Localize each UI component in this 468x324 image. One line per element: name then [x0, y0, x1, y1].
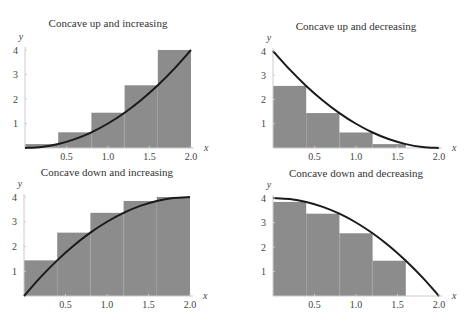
y-tick-label: 3 [261, 70, 266, 81]
y-tick-label: 4 [261, 46, 266, 57]
y-tick-label: 2 [261, 94, 266, 105]
riemann-rect [306, 214, 339, 296]
y-tick-label: 1 [13, 118, 18, 129]
y-tick-label: 2 [13, 94, 18, 105]
panel-1: 0.51.01.52.01234xy [13, 31, 209, 162]
x-tick-label: 1.5 [142, 299, 155, 310]
riemann-rect [157, 197, 190, 296]
riemann-rect [306, 113, 339, 148]
riemann-rect [273, 202, 306, 296]
y-tick-label: 3 [13, 69, 18, 80]
y-axis-label: y [266, 32, 272, 43]
x-axis-label: x [203, 142, 209, 153]
x-axis-label: x [451, 142, 457, 153]
panel-2: 0.51.01.52.01234xy [261, 32, 457, 162]
riemann-rect [339, 233, 372, 296]
y-tick-label: 4 [261, 193, 266, 204]
panel-4: 0.51.01.52.01234xy [261, 179, 457, 310]
x-tick-label: 1.5 [143, 151, 156, 162]
riemann-rect [125, 85, 158, 148]
x-tick-label: 2.0 [184, 299, 197, 310]
x-tick-label: 1.0 [350, 151, 363, 162]
y-axis-label: y [17, 178, 23, 189]
x-tick-label: 2.0 [185, 151, 198, 162]
riemann-rect [90, 213, 123, 296]
riemann-rect [57, 233, 90, 296]
x-tick-label: 1.5 [391, 299, 404, 310]
x-tick-label: 1.0 [102, 151, 115, 162]
y-tick-label: 1 [12, 266, 17, 277]
riemann-rect [124, 201, 157, 296]
x-tick-label: 2.0 [433, 299, 446, 310]
panel-title-2: Concave up and decreasing [276, 20, 436, 32]
panel-title-3: Concave down and increasing [27, 166, 187, 178]
x-tick-label: 1.0 [350, 299, 363, 310]
chart-canvas: 0.51.01.52.01234xy0.51.01.52.01234xy0.51… [0, 0, 468, 324]
x-tick-label: 1.0 [101, 299, 114, 310]
x-tick-label: 2.0 [433, 151, 446, 162]
x-tick-label: 0.5 [59, 299, 72, 310]
y-axis-label: y [18, 31, 24, 42]
x-tick-label: 0.5 [308, 299, 321, 310]
riemann-rect [373, 261, 406, 296]
x-tick-label: 1.5 [391, 151, 404, 162]
y-axis-label: y [266, 179, 272, 190]
y-tick-label: 2 [261, 242, 266, 253]
panel-title-4: Concave down and decreasing [276, 167, 436, 179]
riemann-rect [273, 86, 306, 148]
x-axis-label: x [202, 290, 208, 301]
riemann-rect [373, 144, 406, 148]
y-tick-label: 1 [261, 118, 266, 129]
x-tick-label: 0.5 [60, 151, 73, 162]
riemann-rect [339, 132, 372, 148]
y-tick-label: 4 [12, 192, 17, 203]
y-tick-label: 1 [261, 266, 266, 277]
x-axis-label: x [451, 290, 457, 301]
riemann-rect [158, 50, 191, 148]
y-tick-label: 3 [261, 217, 266, 228]
y-tick-label: 4 [13, 45, 18, 56]
panel-3: 0.51.01.52.01234xy [12, 178, 208, 310]
panel-title-1: Concave up and increasing [28, 17, 188, 29]
y-tick-label: 3 [12, 216, 17, 227]
x-tick-label: 0.5 [308, 151, 321, 162]
y-tick-label: 2 [12, 241, 17, 252]
